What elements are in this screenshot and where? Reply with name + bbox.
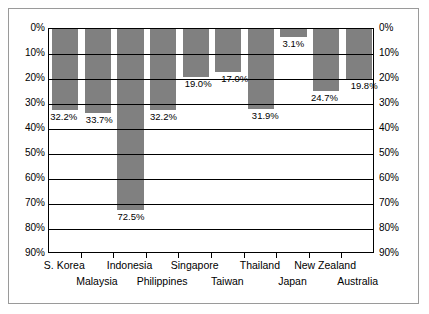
x-axis-tick	[309, 253, 310, 258]
x-axis-tick	[81, 253, 82, 258]
x-axis-category-label: Australia	[318, 275, 398, 288]
bar	[52, 29, 78, 110]
bar	[117, 29, 143, 210]
y-axis-tick-label-right: 50%	[379, 147, 399, 158]
x-axis-tick	[211, 253, 212, 258]
x-axis-tick	[146, 253, 147, 258]
x-axis-category-label: New Zealand	[285, 259, 365, 272]
y-axis-tick-label-left: 50%	[25, 147, 45, 158]
y-axis-tick-label-left: 90%	[25, 247, 45, 258]
y-axis-right: 0%10%20%30%40%50%60%70%80%90%	[379, 28, 419, 253]
x-axis-tick	[244, 253, 245, 258]
bar	[313, 29, 339, 91]
chart-figure: 0%10%20%30%40%50%60%70%80%90% 32.2%33.7%…	[0, 0, 429, 314]
x-axis-tick	[341, 253, 342, 258]
y-axis-tick-label-left: 70%	[25, 197, 45, 208]
x-axis-tick	[113, 253, 114, 258]
bar	[346, 29, 372, 79]
bar	[150, 29, 176, 110]
y-axis-tick-label-right: 60%	[379, 172, 399, 183]
y-axis-tick-label-right: 70%	[379, 197, 399, 208]
y-axis-tick-label-left: 60%	[25, 172, 45, 183]
bars-layer	[49, 29, 373, 252]
x-axis-tick	[276, 253, 277, 258]
bar	[280, 29, 306, 37]
y-axis-tick-label-right: 0%	[379, 22, 393, 33]
y-axis-tick-label-left: 30%	[25, 97, 45, 108]
x-axis-category-labels: S. KoreaMalaysiaIndonesiaPhilippinesSing…	[14, 259, 414, 299]
y-axis-tick-label-right: 20%	[379, 72, 399, 83]
bar	[85, 29, 111, 113]
bar	[183, 29, 209, 77]
y-axis-left: 0%10%20%30%40%50%60%70%80%90%	[6, 28, 45, 253]
bar	[248, 29, 274, 109]
y-axis-tick-label-left: 0%	[31, 22, 45, 33]
y-axis-tick-label-left: 40%	[25, 122, 45, 133]
y-axis-tick-label-right: 40%	[379, 122, 399, 133]
y-axis-tick-label-left: 20%	[25, 72, 45, 83]
y-axis-tick-label-right: 10%	[379, 47, 399, 58]
y-axis-tick-label-right: 90%	[379, 247, 399, 258]
bar	[215, 29, 241, 72]
x-axis-tick	[178, 253, 179, 258]
plot-area: 32.2%33.7%72.5%32.2%19.0%17.0%31.9%3.1%2…	[48, 28, 374, 253]
y-axis-tick-label-left: 80%	[25, 222, 45, 233]
y-axis-tick-label-right: 80%	[379, 222, 399, 233]
y-axis-tick-label-left: 10%	[25, 47, 45, 58]
y-axis-tick-label-right: 30%	[379, 97, 399, 108]
